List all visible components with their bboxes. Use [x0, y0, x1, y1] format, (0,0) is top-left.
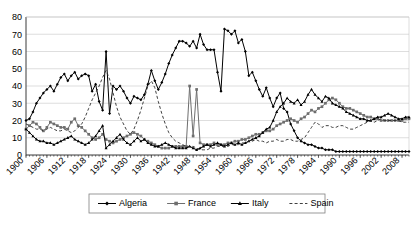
data-point [59, 126, 62, 129]
series-algeria [25, 28, 411, 153]
data-point [105, 50, 108, 53]
data-point [101, 109, 104, 112]
legend-label-italy[interactable]: Italy [252, 198, 269, 208]
data-point [251, 135, 254, 138]
data-point [32, 121, 35, 124]
legend-label-spain[interactable]: Spain [310, 198, 333, 208]
x-tick-label: 1990 [318, 155, 339, 176]
x-axis-tick-labels: 1900190619121918192419301936194219481954… [4, 155, 401, 176]
data-point [140, 135, 143, 138]
y-tick-label: 80 [12, 12, 22, 22]
series-italy [25, 88, 411, 151]
data-point [216, 141, 219, 144]
data-point [98, 100, 101, 103]
data-point [296, 98, 299, 101]
data-point [345, 150, 348, 153]
x-tick-label: 1972 [255, 155, 276, 176]
y-tick-label: 70 [12, 30, 22, 40]
legend-label-france[interactable]: France [188, 198, 216, 208]
series-line [26, 29, 409, 151]
data-point [401, 150, 404, 153]
data-point [282, 121, 285, 124]
data-point [268, 97, 271, 100]
data-point [94, 138, 97, 141]
data-point [108, 112, 111, 115]
data-point [376, 150, 379, 153]
data-point [314, 111, 317, 114]
data-point [133, 131, 136, 134]
data-point [39, 126, 42, 129]
data-point [286, 96, 289, 99]
data-point [348, 150, 351, 153]
data-point [136, 133, 139, 136]
data-point [63, 126, 66, 129]
data-point [369, 116, 372, 119]
y-tick-label: 30 [12, 99, 22, 109]
data-point [272, 128, 275, 131]
chart-container: 01020304050607080 1900190619121918192419… [0, 0, 418, 225]
data-point [335, 98, 338, 101]
data-point [199, 142, 202, 145]
x-tick-label: 1966 [234, 155, 255, 176]
data-point [279, 123, 282, 126]
data-point [327, 148, 330, 151]
data-point [293, 119, 296, 122]
x-tick-label: 2002 [359, 155, 380, 176]
data-point [46, 126, 49, 129]
data-point [98, 136, 101, 139]
data-point [324, 95, 327, 98]
y-tick-label: 20 [12, 116, 22, 126]
data-point [244, 138, 247, 141]
data-point [387, 150, 390, 153]
legend-marker-algeria [105, 202, 109, 206]
data-point [289, 117, 292, 120]
x-tick-label: 1960 [213, 155, 234, 176]
data-point [307, 112, 310, 115]
line-chart: 01020304050607080 1900190619121918192419… [0, 0, 418, 225]
data-point [101, 124, 104, 127]
data-point [209, 48, 212, 51]
y-tick-label: 40 [12, 81, 22, 91]
data-point [387, 112, 390, 115]
data-point [188, 85, 191, 88]
data-point [195, 88, 198, 91]
data-point [247, 136, 250, 139]
data-point [369, 150, 372, 153]
data-point [73, 117, 76, 120]
data-point [164, 141, 167, 144]
data-point [241, 138, 244, 141]
data-point [310, 88, 313, 91]
data-point [164, 72, 167, 75]
x-tick-label: 1930 [109, 155, 130, 176]
data-point [35, 123, 38, 126]
data-point [383, 150, 386, 153]
data-point [362, 114, 365, 117]
data-point [275, 124, 278, 127]
x-tick-label: 1900 [4, 155, 25, 176]
x-tick-label: 1984 [297, 155, 318, 176]
data-point [352, 150, 355, 153]
data-point [324, 102, 327, 105]
data-point [303, 116, 306, 119]
data-point [362, 150, 365, 153]
data-point [216, 71, 219, 74]
data-point [380, 150, 383, 153]
data-point [213, 48, 216, 51]
x-tick-label: 1936 [130, 155, 151, 176]
legend-label-algeria[interactable]: Algeria [119, 198, 147, 208]
data-point [338, 102, 341, 105]
data-point [153, 79, 156, 82]
data-point [119, 133, 122, 136]
data-point [84, 130, 87, 133]
data-point [286, 119, 289, 122]
data-point [126, 135, 129, 138]
y-tick-label: 60 [12, 47, 22, 57]
y-axis-tick-labels: 01020304050607080 [12, 12, 22, 160]
data-point [150, 69, 153, 72]
data-point [265, 86, 268, 89]
data-point [359, 150, 362, 153]
x-tick-label: 1948 [171, 155, 192, 176]
x-tick-label: 1924 [88, 155, 109, 176]
y-tick-label: 50 [12, 64, 22, 74]
data-point [366, 150, 369, 153]
